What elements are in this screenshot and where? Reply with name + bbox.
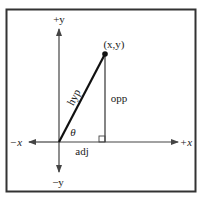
neg-x-label: −x [10,136,22,148]
neg-y-label: −y [52,176,64,188]
pos-y-label: +y [53,13,65,25]
point-marker [102,51,108,57]
angle-theta-label: θ [70,126,76,138]
trig-diagram: +y −y +x −x (x,y) hyp opp adj θ [0,0,202,198]
diagram-frame [7,10,196,192]
point-label: (x,y) [103,38,124,51]
adjacent-label: adj [75,145,88,157]
pos-x-label: +x [180,136,192,148]
opposite-label: opp [111,92,128,104]
